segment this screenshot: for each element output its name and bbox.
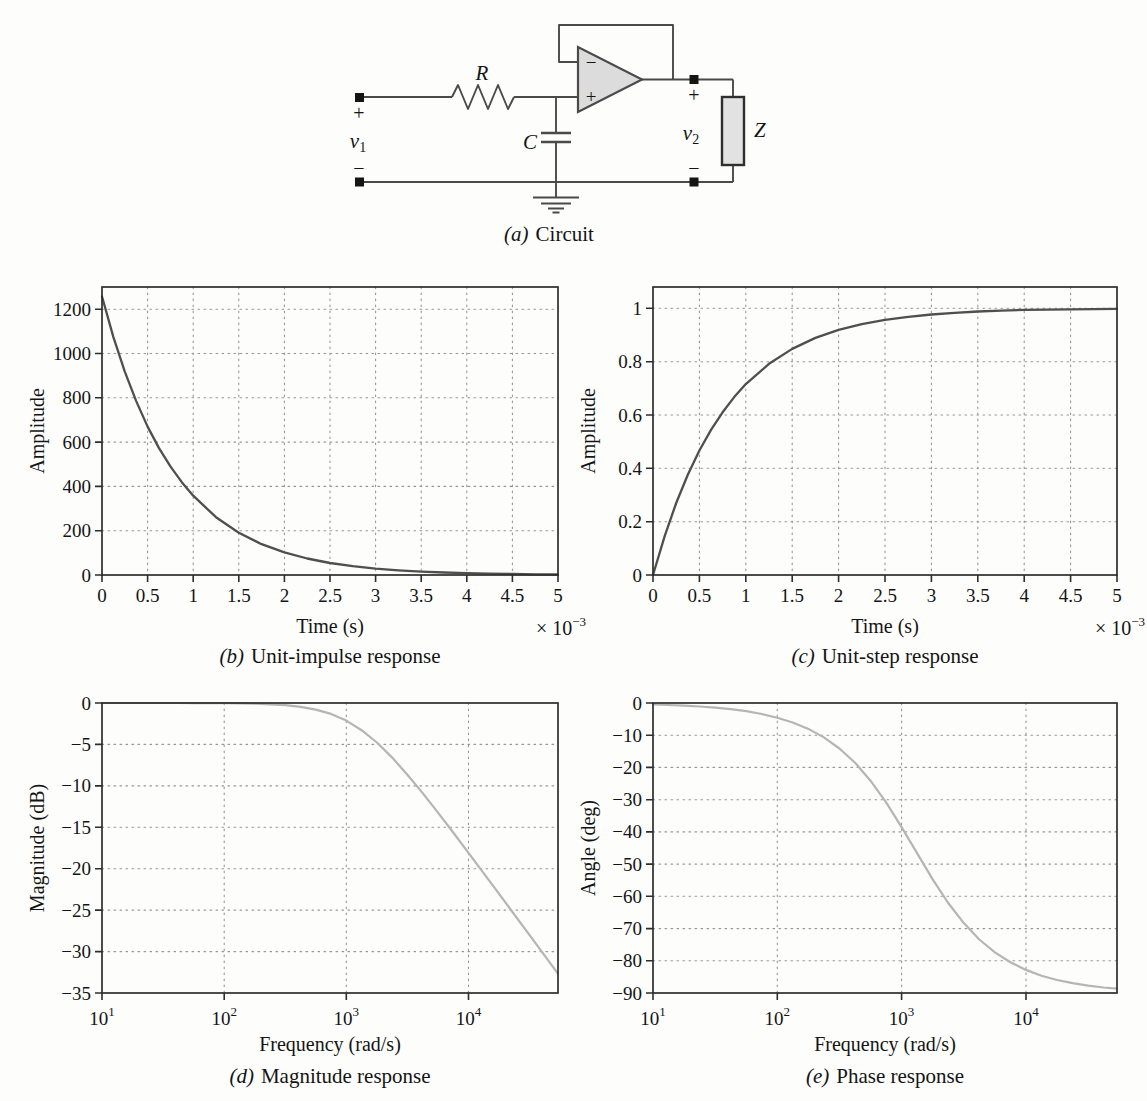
x-tick-label: 5 [553,585,563,606]
terminal-node [690,75,699,84]
chart-caption: (e)Phase response [806,1064,964,1088]
output-minus-sign: − [688,157,699,179]
axis-offset-label: × 10−3 [536,614,586,639]
circuit-caption: (a)Circuit [504,222,594,246]
plot-frame [102,703,558,993]
x-tick-label: 4 [1019,585,1029,606]
x-tick-label: 3 [371,585,381,606]
axis-ticks [646,703,1026,1000]
x-tick-label: 102 [211,1004,237,1029]
capacitor-symbol [541,133,571,142]
y-tick-label: −80 [612,950,642,971]
x-tick-label: 2 [280,585,290,606]
y-tick-label: 0.6 [618,405,642,426]
resistor-label: R [475,61,489,85]
y-tick-label: −50 [612,854,642,875]
grid-lines [102,703,558,993]
axis-offset-label: × 10−3 [1095,614,1145,639]
x-tick-label: 4.5 [501,585,525,606]
v1-label: v1 [350,129,366,155]
x-tick-label: 104 [456,1004,482,1029]
figure-page: − + R C Z + v1 − + v2 − (a)Circuit 00.51… [0,0,1147,1101]
y-tick-label: 400 [63,476,92,497]
y-tick-label: −30 [61,941,91,962]
grid-lines [102,287,558,575]
x-axis-title: Time (s) [851,615,919,638]
opamp-plus-sign: + [586,86,597,107]
x-tick-label: 1 [188,585,198,606]
x-tick-label: 3.5 [409,585,433,606]
y-tick-label: 0.4 [618,458,642,479]
y-tick-label: −10 [612,725,642,746]
y-tick-label: 0.2 [618,511,642,532]
x-tick-label: 0 [648,585,658,606]
curve-magnitude [102,703,558,973]
x-axis-title: Frequency (rad/s) [814,1033,956,1056]
y-axis-title: Magnitude (dB) [26,784,49,912]
y-tick-label: −20 [61,858,91,879]
y-tick-label: 600 [63,432,92,453]
axis-ticks [646,308,1117,582]
x-tick-label: 1.5 [227,585,251,606]
x-tick-label: 102 [765,1004,791,1029]
y-tick-label: −30 [612,789,642,810]
x-tick-label: 3.5 [966,585,990,606]
x-tick-label: 103 [889,1004,915,1029]
y-tick-label: −5 [71,734,91,755]
chart-unit-step-response: 00.511.522.533.544.5500.20.40.60.81Ampli… [585,255,1147,675]
axis-ticks [95,703,469,1000]
x-tick-label: 104 [1013,1004,1039,1029]
x-tick-label: 2.5 [318,585,342,606]
y-tick-label: 0 [82,693,92,714]
axis-ticks [95,309,558,582]
x-tick-label: 5 [1112,585,1122,606]
circuit-diagram: − + R C Z + v1 − + v2 − (a)Circuit [325,5,825,255]
y-tick-label: −15 [61,817,91,838]
input-minus-sign: − [353,157,364,179]
resistor-symbol [452,85,514,109]
x-tick-label: 2.5 [873,585,897,606]
y-tick-label: 0 [82,565,92,586]
plot-frame [653,703,1117,993]
y-tick-label: −90 [612,983,642,1004]
terminal-node [355,93,364,102]
y-tick-label: 1 [633,298,643,319]
chart-caption: (d)Magnitude response [229,1064,430,1088]
impedance-label: Z [754,118,766,142]
x-tick-label: 1 [741,585,751,606]
ground-symbol [533,198,579,213]
x-tick-label: 3 [927,585,937,606]
x-axis-title: Frequency (rad/s) [259,1033,401,1056]
y-tick-label: 0.8 [618,351,642,372]
x-axis-title: Time (s) [296,615,364,638]
y-tick-label: 800 [63,387,92,408]
chart-caption: (b)Unit-impulse response [219,644,440,668]
curve-phase [653,705,1117,989]
chart-phase-response: 1011021031040−10−20−30−40−50−60−70−80−90… [585,685,1147,1101]
grid-lines [653,703,1117,993]
x-tick-label: 4 [462,585,472,606]
x-tick-label: 103 [334,1004,360,1029]
chart-magnitude-response: 1011021031040−5−10−15−20−25−30−35Magnitu… [0,685,600,1101]
y-tick-label: −70 [612,918,642,939]
x-tick-label: 101 [89,1004,115,1029]
x-tick-label: 4.5 [1059,585,1083,606]
output-plus-sign: + [688,84,699,106]
chart-caption: (c)Unit-step response [791,644,978,668]
y-tick-label: 1200 [53,299,91,320]
capacitor-label: C [523,130,538,154]
grid-lines [653,287,1117,575]
x-tick-label: 101 [640,1004,666,1029]
v2-label: v2 [683,121,699,147]
y-axis-title: Amplitude [26,388,49,474]
y-tick-label: −20 [612,757,642,778]
y-tick-label: 1000 [53,343,91,364]
y-tick-label: −10 [61,775,91,796]
chart-unit-impulse-response: 00.511.522.533.544.550200400600800100012… [0,255,600,675]
input-plus-sign: + [353,102,364,124]
y-tick-label: −60 [612,886,642,907]
x-tick-label: 0.5 [688,585,712,606]
x-tick-label: 0 [97,585,107,606]
y-axis-title: Amplitude [577,388,600,474]
y-tick-label: 200 [63,520,92,541]
